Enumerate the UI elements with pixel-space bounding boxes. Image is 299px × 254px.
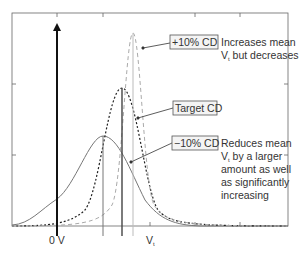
note-minus10: Reduces mean Vt by a larger amount as we… <box>221 137 292 201</box>
note-plus10: Increases mean Vt but decreases <box>221 36 299 62</box>
svg-text:Vt by a larger: Vt by a larger <box>221 150 283 163</box>
callout-leaders <box>130 43 173 163</box>
callout-label-target: Target CD <box>175 102 223 114</box>
svg-text:Reduces mean: Reduces mean <box>221 137 292 149</box>
svg-text:Increases mean: Increases mean <box>221 36 296 48</box>
distribution-diagram: +10% CD Target CD −10% CD Increases mean… <box>0 0 299 254</box>
svg-text:increasing: increasing <box>221 189 269 201</box>
callout-label-plus10: +10% CD <box>172 36 218 48</box>
top-ticks <box>57 13 240 17</box>
svg-text:amount as well: amount as well <box>221 163 291 175</box>
svg-text:as significantly: as significantly <box>221 176 290 188</box>
left-ticks <box>12 84 16 155</box>
vt-label: Vt <box>146 234 155 247</box>
svg-text:Vt but decreases: Vt but decreases <box>221 49 299 62</box>
arrow-up-icon <box>53 23 61 31</box>
callout-label-minus10: −10% CD <box>174 137 220 149</box>
zero-volt-label: 0 V <box>49 234 65 246</box>
